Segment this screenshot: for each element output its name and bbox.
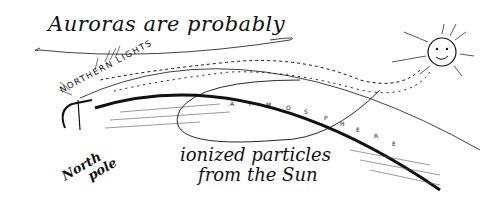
illustration-title: Auroras are probably: [48, 12, 285, 36]
atmosphere-letter: M: [266, 101, 271, 108]
ionized-particles-label: ionized particles: [180, 146, 331, 164]
sun-icon: [392, 24, 474, 76]
atmosphere-letter: A: [230, 100, 234, 107]
from-the-sun-label: from the Sun: [198, 164, 318, 185]
atmosphere-letter: S: [304, 108, 308, 115]
atmosphere-letter: E: [392, 140, 396, 147]
atmosphere-letter: E: [356, 126, 360, 133]
atmosphere-letter: R: [374, 132, 378, 139]
atmosphere-letter: T: [248, 100, 252, 107]
aurora-illustration: Auroras are probably NORTHERN LIGHTS A T…: [0, 0, 498, 200]
atmosphere-letter: O: [286, 104, 291, 111]
atmosphere-letter: H: [340, 120, 345, 127]
atmosphere-letter: P: [324, 114, 328, 121]
